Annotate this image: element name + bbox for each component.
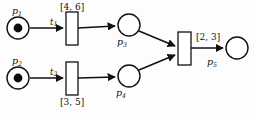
arc-p3-to-t3 (139, 31, 175, 46)
place-p4[interactable]: p4 (116, 65, 140, 98)
transition-t2-interval: [3, 5] (60, 97, 84, 107)
transition-merge-bar (178, 32, 191, 65)
place-p5-circle (226, 37, 248, 59)
arc-t2-to-p4 (78, 77, 115, 78)
place-p4-circle (118, 65, 140, 87)
arc-p4-to-t3 (139, 55, 175, 70)
transition-t2-bar (66, 62, 78, 95)
transition-t2[interactable]: t2 [3, 5] (50, 62, 84, 107)
transition-t1-label: t1 (50, 17, 57, 28)
place-p1-label: p1 (12, 5, 22, 17)
transition-t1-interval: [4, 6] (60, 2, 84, 12)
petri-net-canvas: p1 p2 p3 p4 p5 (0, 0, 254, 113)
transition-t2-label: t2 (50, 67, 57, 78)
place-p3-label: p3 (117, 36, 127, 48)
place-p1-token (14, 24, 23, 33)
place-p2[interactable]: p2 (7, 55, 29, 90)
place-p1[interactable]: p1 (7, 5, 29, 40)
arc-t1-to-p3 (78, 26, 115, 28)
place-p5-label: p5 (207, 56, 217, 68)
place-p4-label: p4 (116, 87, 126, 99)
transition-merge-interval: [2, 3] (196, 32, 220, 42)
place-p5[interactable]: p5 (207, 37, 248, 67)
transition-t1-bar (66, 12, 78, 45)
place-p2-label: p2 (12, 55, 22, 67)
place-p3-circle (118, 14, 140, 36)
place-p3[interactable]: p3 (117, 14, 140, 47)
petri-net-diagram: p1 p2 p3 p4 p5 (0, 0, 254, 113)
transition-t1[interactable]: t1 [4, 6] (50, 2, 84, 46)
place-p2-token (14, 74, 23, 83)
